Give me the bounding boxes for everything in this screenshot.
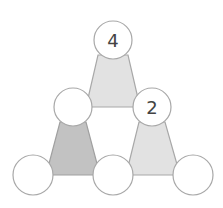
circle-bottom-left[interactable] (13, 155, 53, 195)
circle-bottom-middle[interactable] (93, 155, 133, 195)
circle-middle-right[interactable]: 2 (133, 88, 171, 126)
top-triangle (86, 55, 140, 107)
number-triangle-diagram: 4 2 (0, 0, 223, 208)
bottom-left-triangle (46, 122, 100, 175)
bottom-right-triangle (126, 122, 180, 175)
circle-top-value: 4 (107, 30, 118, 51)
circle-middle-left[interactable] (54, 88, 92, 126)
diagram-canvas: 4 2 (0, 0, 223, 208)
circle-middle-right-value: 2 (146, 97, 157, 118)
circle-bottom-right[interactable] (173, 155, 213, 195)
circle-top[interactable]: 4 (94, 21, 132, 59)
